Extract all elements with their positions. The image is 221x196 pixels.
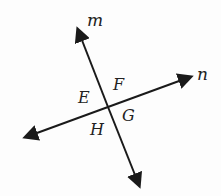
line-n-label: n (197, 66, 208, 83)
angle-label-e: E (78, 90, 90, 106)
angle-label-f: F (113, 77, 124, 93)
intersecting-lines-figure (0, 0, 221, 196)
diagram-canvas: m n E F G H (0, 0, 221, 196)
line-m-label: m (87, 12, 103, 29)
angle-label-g: G (122, 108, 135, 124)
angle-label-h: H (90, 122, 104, 138)
